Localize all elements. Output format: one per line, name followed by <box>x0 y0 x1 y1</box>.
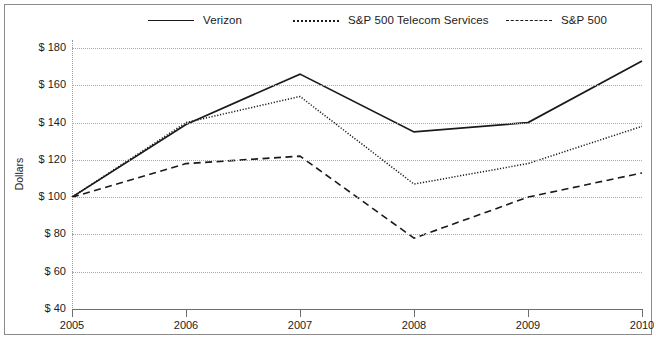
y-axis-tick-label: $ 120 <box>18 153 66 165</box>
y-axis-tick-label: $ 60 <box>18 265 66 277</box>
legend-item-sp500-telecom-services: S&P 500 Telecom Services <box>293 9 489 31</box>
x-axis-line <box>72 309 642 310</box>
plot-area <box>72 48 642 309</box>
y-axis-tick-label: $ 160 <box>18 78 66 90</box>
y-axis-tick-label: $ 80 <box>18 227 66 239</box>
gridline <box>72 85 642 86</box>
chart-screenshot: Verizon S&P 500 Telecom Services S&P 500… <box>0 0 656 339</box>
y-axis-tick-label: $ 180 <box>18 41 66 53</box>
x-axis-tick-label: 2009 <box>516 319 540 331</box>
series-lines <box>72 48 642 309</box>
y-axis-tick-label: $ 40 <box>18 302 66 314</box>
x-axis-tick-label: 2007 <box>288 319 312 331</box>
gridline <box>72 160 642 161</box>
x-axis-tick <box>300 309 301 317</box>
legend-label-verizon: Verizon <box>203 14 242 26</box>
x-axis-tick <box>414 309 415 317</box>
series-line-s-p-500-telecom-services <box>72 96 642 197</box>
legend-label-sp500: S&P 500 <box>561 14 607 26</box>
x-axis-tick <box>72 309 73 317</box>
gridline <box>72 48 642 49</box>
solid-line-swatch <box>148 14 194 26</box>
x-axis-tick-label: 2006 <box>174 319 198 331</box>
dashed-line-swatch <box>506 14 552 26</box>
chart-legend: Verizon S&P 500 Telecom Services S&P 500 <box>0 9 656 31</box>
gridline <box>72 234 642 235</box>
y-axis-tick-label: $ 140 <box>18 116 66 128</box>
x-axis-tick <box>642 309 643 317</box>
x-axis-tick-label: 2005 <box>60 319 84 331</box>
legend-item-sp500: S&P 500 <box>506 9 607 31</box>
x-axis-tick-label: 2008 <box>402 319 426 331</box>
y-axis-tick-label: $ 100 <box>18 190 66 202</box>
x-axis-tick <box>528 309 529 317</box>
series-line-verizon <box>72 61 642 197</box>
gridline <box>72 272 642 273</box>
x-axis-tick <box>186 309 187 317</box>
gridline <box>72 123 642 124</box>
dotted-line-swatch <box>293 14 339 26</box>
legend-item-verizon: Verizon <box>148 9 242 31</box>
legend-label-sp500-telecom-services: S&P 500 Telecom Services <box>348 14 489 26</box>
gridline <box>72 197 642 198</box>
x-axis-tick-label: 2010 <box>630 319 654 331</box>
